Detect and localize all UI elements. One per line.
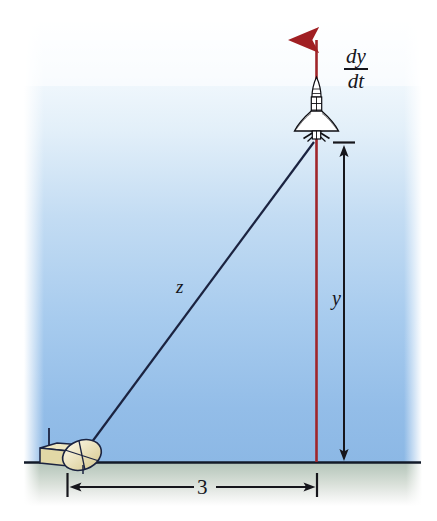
label-dt-denominator: dt — [344, 71, 368, 92]
label-y: y — [332, 288, 341, 308]
label-dy-dt: dy dt — [344, 46, 368, 93]
label-z: z — [176, 277, 183, 296]
figure-container: z y 3 dy dt — [0, 0, 437, 521]
label-base-distance: 3 — [197, 477, 208, 498]
label-dy-numerator: dy — [344, 46, 368, 67]
diagram-canvas — [0, 0, 437, 521]
